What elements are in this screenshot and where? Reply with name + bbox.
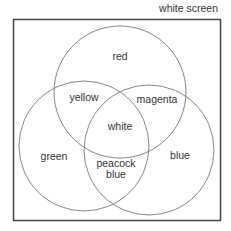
label-green: green: [41, 150, 68, 162]
venn-diagram: white screen red yellow magenta white gr…: [0, 0, 231, 231]
screen-label: white screen: [158, 2, 218, 14]
label-yellow: yellow: [69, 91, 99, 103]
label-peacock-blue-line2: blue: [106, 168, 126, 180]
label-blue: blue: [170, 149, 190, 161]
label-magenta: magenta: [137, 93, 178, 105]
label-red: red: [112, 50, 127, 62]
label-white: white: [107, 120, 133, 132]
